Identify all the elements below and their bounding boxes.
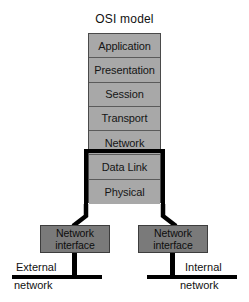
osi-model-diagram: OSI model Application Presentation Sessi… [0,0,249,302]
osi-layer-network: Network [89,131,160,155]
osi-layer-label: Application [98,40,151,52]
external-network-label-line1: External [16,261,56,274]
internal-network-label-line1: Internal [185,261,222,274]
osi-layer-transport: Transport [89,107,160,131]
network-stem-right [170,253,175,277]
osi-layer-label: Network [105,137,145,149]
network-interface-box-left: Network interface [40,225,110,253]
connector-left-icon [73,204,86,226]
osi-model-stack: Application Presentation Session Transpo… [88,33,161,203]
connector-right-icon [163,204,176,226]
osi-layer-label: Session [105,88,143,100]
network-interface-label-line1: Network [154,227,192,239]
osi-layer-presentation: Presentation [89,58,160,82]
osi-layer-label: Data Link [102,161,148,173]
network-interface-label-line1: Network [56,227,94,239]
network-interface-label-line2: interface [153,239,192,251]
osi-layer-label: Physical [104,186,144,198]
internal-network-label-line2: network [180,279,219,292]
osi-layer-application: Application [89,34,160,58]
osi-layer-session: Session [89,83,160,107]
osi-layer-label: Transport [102,112,148,124]
page-title: OSI model [0,12,249,26]
network-interface-label-line2: interface [55,239,94,251]
network-interface-box-right: Network interface [138,225,208,253]
network-stem-left [72,253,77,277]
osi-layer-data-link: Data Link [89,155,160,179]
external-network-label-line2: network [14,279,53,292]
osi-layer-physical: Physical [89,180,160,204]
osi-layer-label: Presentation [94,64,155,76]
